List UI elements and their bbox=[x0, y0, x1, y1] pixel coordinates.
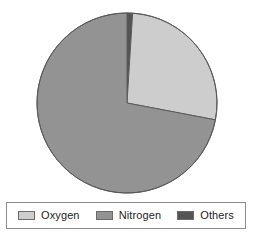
legend-item-oxygen[interactable]: Oxygen bbox=[18, 210, 80, 221]
pie-slice-oxygen[interactable] bbox=[127, 13, 217, 120]
pie-svg bbox=[0, 0, 255, 198]
legend-swatch-nitrogen bbox=[96, 211, 113, 220]
legend-label-oxygen: Oxygen bbox=[41, 210, 80, 221]
legend-label-others: Others bbox=[200, 210, 234, 221]
legend-item-nitrogen[interactable]: Nitrogen bbox=[96, 210, 161, 221]
legend-swatch-others bbox=[177, 211, 194, 220]
legend-item-others[interactable]: Others bbox=[177, 210, 234, 221]
pie-slice-group bbox=[37, 13, 217, 193]
pie-plot-area bbox=[0, 0, 255, 198]
legend-swatch-oxygen bbox=[18, 211, 35, 220]
legend-label-nitrogen: Nitrogen bbox=[119, 210, 161, 221]
pie-chart-figure: Oxygen Nitrogen Others bbox=[0, 0, 255, 238]
chart-legend: Oxygen Nitrogen Others bbox=[6, 202, 246, 229]
